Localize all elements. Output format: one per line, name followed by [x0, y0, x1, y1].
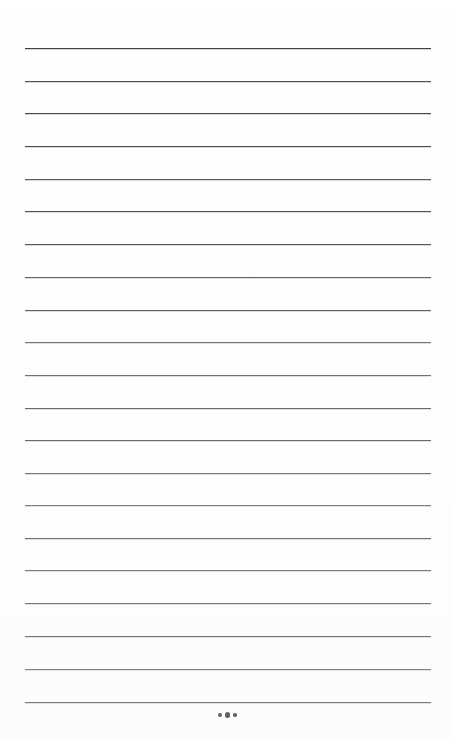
rule-line: [25, 702, 431, 703]
rule-line: [25, 408, 431, 409]
rule-line: [25, 538, 431, 539]
ornament-dot-left: [218, 713, 222, 717]
rule-line: [25, 603, 431, 604]
rule-line: [25, 342, 431, 343]
rule-line: [25, 669, 431, 670]
rule-line: [25, 505, 431, 506]
three-dot-ellipsis-ornament: [207, 710, 247, 720]
rule-line: [25, 244, 431, 245]
rule-line: [25, 473, 431, 474]
rule-line: [25, 375, 431, 376]
ornament-dot-right: [233, 713, 237, 717]
rule-line: [25, 179, 431, 180]
rule-line: [25, 277, 431, 278]
ruled-lines-group: [0, 0, 453, 739]
rule-line: [25, 211, 431, 212]
rule-line: [25, 146, 431, 147]
ruled-page-sheet: [0, 0, 453, 739]
rule-line: [25, 570, 431, 571]
rule-line: [25, 81, 431, 82]
rule-line: [25, 636, 431, 637]
rule-line: [25, 48, 431, 49]
rule-line: [25, 310, 431, 311]
ornament-dot-center: [225, 712, 231, 718]
rule-line: [25, 440, 431, 441]
rule-line: [25, 113, 431, 114]
